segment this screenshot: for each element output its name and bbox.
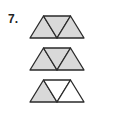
figure-1: [30, 16, 84, 38]
figure-2: [30, 48, 84, 70]
figure-3: [30, 80, 84, 102]
trapezoid-figures: [0, 0, 114, 123]
